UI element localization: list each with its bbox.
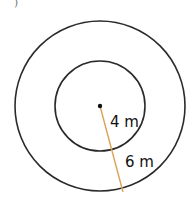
center-point [98,104,102,108]
inner-radius-label: 4 m [110,113,139,131]
concentric-circles-diagram: ) 4 m 6 m [0,0,191,203]
part-marker: ) [14,0,18,9]
ring-width-label: 6 m [125,153,154,171]
